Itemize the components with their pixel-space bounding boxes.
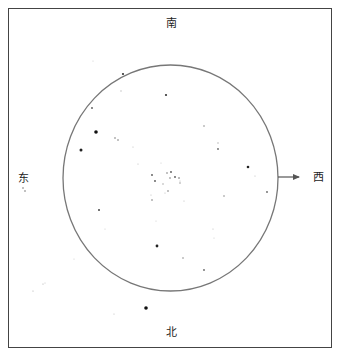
star-dot: [266, 191, 268, 193]
star-dot: [120, 90, 121, 91]
direction-label-north: 北: [163, 327, 179, 339]
star-dot: [182, 257, 184, 259]
star-dot: [24, 190, 25, 191]
star-dot: [151, 199, 153, 201]
star-dot: [114, 137, 116, 139]
star-dot: [213, 237, 214, 238]
direction-label-south: 南: [163, 18, 179, 30]
star-dot: [217, 142, 218, 143]
star-dot: [167, 190, 169, 192]
star-dot: [183, 200, 184, 201]
star-dot: [166, 172, 168, 174]
star-dot: [174, 176, 176, 178]
star-dot: [122, 73, 124, 75]
star-dot: [22, 187, 23, 188]
star-dot: [160, 162, 161, 163]
star-dot: [42, 283, 43, 284]
star-map: [0, 0, 340, 354]
star-dot: [254, 175, 255, 176]
star-dot: [223, 195, 225, 197]
star-dot: [117, 139, 119, 141]
star-dot: [132, 146, 133, 147]
star-dot: [91, 107, 93, 109]
star-dot: [144, 306, 148, 310]
star-dot: [155, 220, 156, 221]
star-dot: [203, 269, 205, 271]
star-dot: [104, 228, 105, 229]
star-dot: [212, 228, 213, 229]
star-dot: [203, 125, 205, 127]
star-dot: [45, 283, 46, 284]
star-dot: [151, 174, 153, 176]
star-dot: [32, 290, 33, 291]
star-dot: [154, 180, 156, 182]
star-dot: [165, 94, 167, 96]
star-dot: [156, 245, 159, 248]
star-dot: [162, 183, 163, 184]
star-dot: [137, 163, 138, 164]
star-dot: [80, 149, 83, 152]
star-dot: [73, 258, 74, 259]
star-dot: [98, 209, 100, 211]
star-dot: [179, 182, 180, 183]
star-dot: [113, 313, 114, 314]
star-dot: [169, 177, 171, 179]
star-dot: [92, 60, 93, 61]
star-dot: [179, 180, 180, 181]
star-dot: [94, 130, 98, 134]
star-dot: [164, 192, 165, 193]
star-dot: [217, 148, 219, 150]
direction-label-east: 东: [15, 173, 31, 185]
star-dot: [150, 194, 151, 195]
stars-layer: [22, 60, 268, 314]
star-dot: [247, 166, 250, 169]
star-dot: [178, 177, 180, 179]
direction-label-west: 西: [310, 172, 326, 184]
star-dot: [170, 171, 172, 173]
